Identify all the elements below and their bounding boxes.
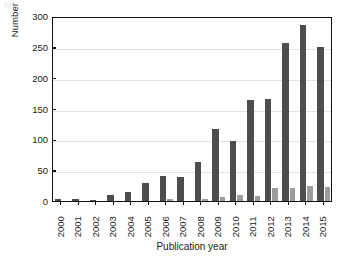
x-axis-tick-labels: 2000200120022003200420052006200720082009…: [0, 0, 348, 261]
x-axis-tick-mark: [323, 202, 324, 205]
x-axis-tick-label-2001: 2001: [74, 215, 84, 239]
x-axis-tick-mark: [253, 202, 254, 205]
x-axis-tick-mark: [183, 202, 184, 205]
x-axis-tick-label-2015: 2015: [319, 215, 329, 239]
x-axis-tick-mark: [200, 202, 201, 205]
x-axis-title: Publication year: [52, 241, 332, 252]
x-axis-tick-label-2014: 2014: [301, 215, 311, 239]
y-axis-tick-mark: [52, 140, 56, 141]
x-axis-tick-label-2005: 2005: [144, 215, 154, 239]
x-axis-tick-mark: [305, 202, 306, 205]
x-axis-tick-label-2010: 2010: [231, 215, 241, 239]
x-axis-tick-mark: [95, 202, 96, 205]
x-axis-tick-mark: [218, 202, 219, 205]
x-axis-tick-label-2011: 2011: [249, 215, 259, 239]
x-axis-tick-mark: [270, 202, 271, 205]
x-axis-tick-mark: [113, 202, 114, 205]
x-axis-tick-label-2006: 2006: [161, 215, 171, 239]
x-axis-tick-mark: [288, 202, 289, 205]
bar-chart-figure: Number of publication 050100150200250300…: [0, 0, 348, 261]
y-axis-tick-mark: [52, 170, 56, 171]
x-axis-tick-mark: [60, 202, 61, 205]
x-axis-tick-label-2000: 2000: [56, 215, 66, 239]
x-axis-tick-label-2008: 2008: [196, 215, 206, 239]
y-axis-tick-mark: [52, 47, 56, 48]
x-axis-tick-mark: [78, 202, 79, 205]
x-axis-tick-label-2004: 2004: [126, 215, 136, 239]
x-axis-tick-label-2003: 2003: [109, 215, 119, 239]
x-axis-tick-label-2012: 2012: [266, 215, 276, 239]
x-axis-tick-mark: [148, 202, 149, 205]
x-axis-tick-mark: [130, 202, 131, 205]
x-axis-tick-label-2009: 2009: [214, 215, 224, 239]
y-axis-tick-mark: [52, 78, 56, 79]
y-axis-tick-mark: [52, 109, 56, 110]
x-axis-tick-mark: [235, 202, 236, 205]
x-axis-tick-label-2007: 2007: [179, 215, 189, 239]
x-axis-tick-label-2002: 2002: [91, 215, 101, 239]
x-axis-tick-mark: [165, 202, 166, 205]
x-axis-tick-label-2013: 2013: [284, 215, 294, 239]
